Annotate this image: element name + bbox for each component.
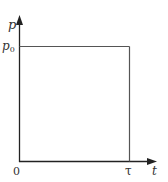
y-axis-arrow-icon	[16, 15, 23, 25]
pulse-diagram: p p0 0 τ t	[0, 0, 168, 182]
amplitude-label-sub: 0	[10, 45, 15, 54]
y-axis-label: p	[8, 18, 16, 31]
duration-label: τ	[125, 165, 132, 177]
amplitude-label-main: p	[2, 39, 10, 53]
diagram-graphic	[0, 0, 168, 182]
origin-label: 0	[13, 166, 20, 177]
amplitude-label: p0	[2, 40, 15, 54]
x-axis-label: t	[152, 165, 157, 177]
